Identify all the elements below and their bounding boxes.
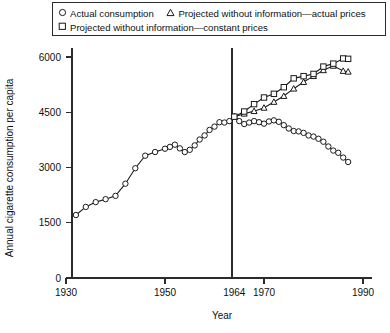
chart-figure: Actual consumption Projected without inf… bbox=[0, 0, 390, 333]
x-tick-label: 1950 bbox=[154, 287, 177, 298]
series-marker bbox=[271, 91, 276, 96]
legend-entry-actual-consumption: Actual consumption bbox=[58, 7, 154, 19]
y-axis-title: Annual cigarette consumption per capita bbox=[4, 78, 15, 257]
series-marker bbox=[143, 153, 148, 158]
chart-series bbox=[232, 56, 351, 120]
axes bbox=[72, 48, 372, 278]
series-marker bbox=[123, 181, 128, 186]
series-marker bbox=[301, 79, 307, 85]
series-marker bbox=[93, 199, 98, 204]
series-marker bbox=[340, 68, 346, 74]
legend-label-projected-constant-prices: Projected without information—constant p… bbox=[70, 22, 268, 33]
series-marker bbox=[341, 155, 346, 160]
series-marker bbox=[281, 93, 287, 99]
series-marker bbox=[276, 119, 281, 124]
x-tick-label: 1970 bbox=[253, 287, 276, 298]
series-marker bbox=[261, 105, 267, 111]
series-marker bbox=[251, 101, 256, 106]
chart-series bbox=[231, 63, 351, 119]
series-marker bbox=[271, 99, 277, 105]
y-tick-label: 6000 bbox=[39, 52, 62, 63]
series-marker bbox=[345, 159, 350, 164]
legend-entry-projected-actual-prices: Projected without information—actual pri… bbox=[166, 7, 365, 19]
series-marker bbox=[301, 73, 306, 78]
legend-square-marker-icon bbox=[58, 22, 67, 31]
series-marker bbox=[311, 71, 316, 76]
series-marker bbox=[207, 127, 212, 132]
series-marker bbox=[242, 109, 247, 114]
series-marker bbox=[331, 61, 336, 66]
series-marker bbox=[73, 212, 78, 217]
series-marker bbox=[113, 193, 118, 198]
series-marker bbox=[291, 76, 296, 81]
y-tick-label: 1500 bbox=[39, 217, 62, 228]
series-marker bbox=[281, 122, 286, 127]
x-tick-label: 1964 bbox=[223, 287, 246, 298]
legend-row-1: Actual consumption Projected without inf… bbox=[58, 7, 366, 19]
series-marker bbox=[321, 64, 326, 69]
series-marker bbox=[197, 137, 202, 142]
y-axis-ticks: 01500300045006000 bbox=[39, 52, 72, 284]
series-marker bbox=[202, 133, 207, 138]
y-tick-label: 3000 bbox=[39, 162, 62, 173]
series-marker bbox=[321, 139, 326, 144]
series-marker bbox=[326, 144, 331, 149]
series-marker bbox=[152, 149, 157, 154]
series-marker bbox=[177, 146, 182, 151]
series-marker bbox=[192, 143, 197, 148]
chart-series bbox=[73, 114, 351, 218]
series-marker bbox=[133, 166, 138, 171]
chart-legend: Actual consumption Projected without inf… bbox=[52, 2, 386, 36]
series-marker bbox=[336, 150, 341, 155]
x-tick-label: 1930 bbox=[55, 287, 78, 298]
chart-plot-area: 01500300045006000 19301950196419701990 Y… bbox=[0, 0, 390, 333]
legend-circle-marker-icon bbox=[58, 8, 67, 17]
series-marker bbox=[316, 136, 321, 141]
y-tick-label: 0 bbox=[55, 273, 61, 284]
x-axis-title: Year bbox=[212, 310, 233, 321]
y-tick-label: 4500 bbox=[39, 107, 62, 118]
series-marker bbox=[103, 196, 108, 201]
series-marker bbox=[83, 204, 88, 209]
legend-label-actual-consumption: Actual consumption bbox=[70, 8, 154, 19]
legend-row-2: Projected without information—constant p… bbox=[58, 21, 268, 33]
legend-entry-projected-constant-prices: Projected without information—constant p… bbox=[58, 21, 268, 33]
x-tick-label: 1990 bbox=[352, 287, 375, 298]
series-marker bbox=[291, 86, 297, 92]
series-marker bbox=[345, 56, 350, 61]
series-marker bbox=[187, 147, 192, 152]
chart-series-layer bbox=[73, 56, 351, 218]
series-marker bbox=[212, 124, 217, 129]
series-marker bbox=[261, 95, 266, 100]
x-axis-ticks: 19301950196419701990 bbox=[55, 278, 375, 298]
series-marker bbox=[281, 85, 286, 90]
legend-label-projected-actual-prices: Projected without information—actual pri… bbox=[178, 8, 365, 19]
series-marker bbox=[172, 142, 177, 147]
legend-triangle-marker-icon bbox=[166, 8, 175, 17]
series-marker bbox=[232, 114, 237, 119]
